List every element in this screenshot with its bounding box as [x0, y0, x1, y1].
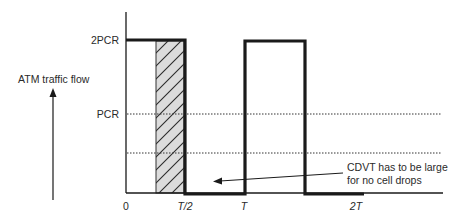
traffic-flow-arrow-up-icon [50, 88, 57, 97]
x-tick-2t: 2T [349, 200, 364, 212]
annotation-arrow-head-icon [213, 178, 222, 185]
y-tick-pcr: PCR [97, 108, 120, 120]
x-tick-t: T [241, 200, 249, 212]
annotation-arrow-line [220, 173, 343, 181]
hatched-cdvt-region [156, 41, 184, 193]
traffic-flow-label: ATM traffic flow [18, 73, 90, 85]
x-tick-t-half: T/2 [177, 200, 192, 212]
x-tick-0: 0 [123, 200, 129, 212]
y-tick-2pcr: 2PCR [91, 34, 119, 46]
annotation-line-2: for no cell drops [347, 174, 422, 186]
annotation-line-1: CDVT has to be large [347, 161, 448, 173]
atm-traffic-diagram: ATM traffic flow 2PCR PCR 0 T/2 T 2T CDV… [0, 0, 467, 221]
